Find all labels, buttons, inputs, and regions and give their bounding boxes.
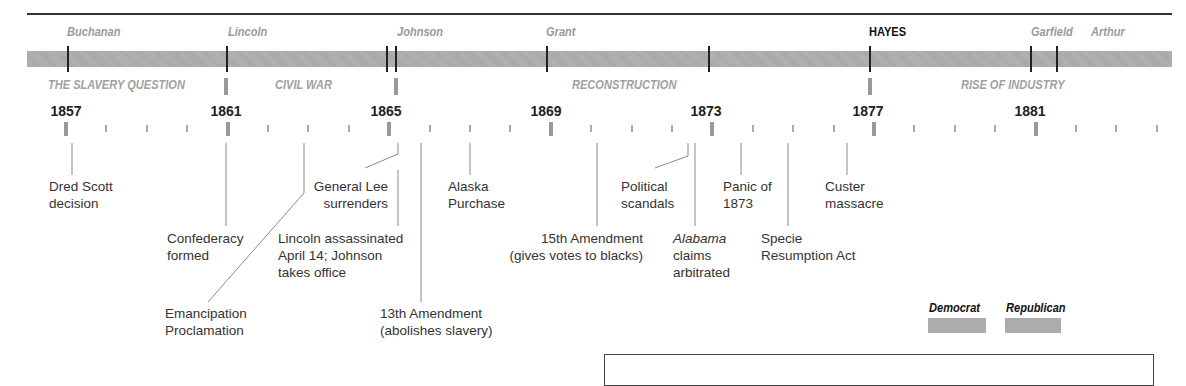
- event-15th-amendment: 15th Amendment (gives votes to blacks): [480, 230, 643, 264]
- event-emancipation-proclamation: Emancipation Proclamation: [165, 305, 247, 339]
- event-panic-1873: Panic of 1873: [723, 178, 772, 212]
- event-13th-amendment: 13th Amendment (abolishes slavery): [380, 305, 493, 339]
- event-lee-surrenders: General Lee surrenders: [290, 178, 388, 212]
- legend-democrat-label: Democrat: [929, 300, 980, 315]
- legend-republican-label: Republican: [1006, 300, 1066, 315]
- alabama-claims-text: claims arbitrated: [673, 248, 730, 280]
- event-custer-massacre: Custer massacre: [825, 178, 884, 212]
- event-lincoln-assassinated: Lincoln assassinated April 14; Johnson t…: [278, 230, 403, 281]
- legend-republican-swatch: [1005, 318, 1061, 333]
- event-alabama-claims: Alabamaclaims arbitrated: [673, 230, 730, 281]
- event-dred-scott: Dred Scott decision: [49, 178, 113, 212]
- event-alaska-purchase: Alaska Purchase: [448, 178, 505, 212]
- event-specie-resumption: Specie Resumption Act: [761, 230, 856, 264]
- event-political-scandals: Political scandals: [621, 178, 674, 212]
- alabama-ship-name: Alabama: [673, 231, 726, 246]
- event-confederacy-formed: Confederacy formed: [167, 230, 244, 264]
- legend-democrat-swatch: [928, 318, 986, 333]
- caption-box: [604, 354, 1154, 386]
